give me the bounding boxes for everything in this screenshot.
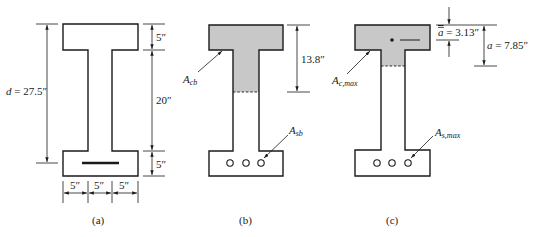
web-width-label: 5″ bbox=[94, 179, 104, 191]
left-flange-width-label: 5″ bbox=[70, 179, 80, 191]
acb-label: Acb bbox=[182, 73, 197, 87]
right-flange-width-label: 5″ bbox=[119, 179, 129, 191]
compression-zone-c bbox=[355, 25, 430, 66]
acb-leader bbox=[198, 51, 222, 72]
height-dimensions: 5″ 20″ 5″ bbox=[143, 24, 172, 176]
figure-a: d = 27.5″ 5″ 20″ 5″ 5″ 5″ 5″ bbox=[3, 24, 172, 227]
rebar-icon bbox=[227, 160, 233, 166]
compression-depth-dimension: 13.8″ bbox=[287, 25, 325, 92]
centroid-dot bbox=[390, 38, 394, 42]
steel-bars-b bbox=[227, 160, 264, 166]
steel-bars-c bbox=[374, 160, 411, 166]
acmax-label: Ac,max bbox=[331, 74, 358, 88]
bottom-flange-thickness-label: 5″ bbox=[156, 158, 166, 170]
block-depth-dimension: a = 7.85″ bbox=[474, 26, 528, 66]
caption-a: (a) bbox=[92, 214, 105, 227]
i-beam-section-a bbox=[63, 24, 138, 176]
caption-c: (c) bbox=[386, 214, 399, 227]
beam-diagram: d = 27.5″ 5″ 20″ 5″ 5″ 5″ 5″ bbox=[0, 0, 535, 237]
asb-label: Asb bbox=[288, 124, 303, 138]
acmax-leader bbox=[347, 51, 370, 74]
rebar-icon bbox=[243, 160, 249, 166]
compression-zone-b bbox=[209, 25, 283, 92]
caption-b: (b) bbox=[239, 214, 252, 227]
rebar-icon bbox=[374, 160, 380, 166]
figure-c: a = 3.13″ a = 7.85″ Ac,max As,max (c) bbox=[331, 7, 528, 227]
rebar-icon bbox=[389, 160, 395, 166]
width-dimensions: 5″ 5″ 5″ bbox=[63, 179, 138, 203]
web-height-label: 20″ bbox=[156, 94, 172, 106]
compression-depth-label: 13.8″ bbox=[301, 53, 325, 65]
rebar-icon bbox=[258, 160, 264, 166]
centroid-label: a = 3.13″ bbox=[438, 26, 479, 38]
depth-dimension: d = 27.5″ bbox=[3, 24, 58, 163]
asmax-label: As,max bbox=[434, 126, 461, 140]
depth-label: d = 27.5″ bbox=[6, 85, 47, 97]
rebar-icon bbox=[405, 160, 411, 166]
asb-leader bbox=[264, 135, 288, 158]
figure-b: 13.8″ Acb Asb (b) bbox=[182, 25, 325, 227]
block-depth-label: a = 7.85″ bbox=[487, 39, 528, 51]
top-flange-thickness-label: 5″ bbox=[156, 31, 166, 43]
